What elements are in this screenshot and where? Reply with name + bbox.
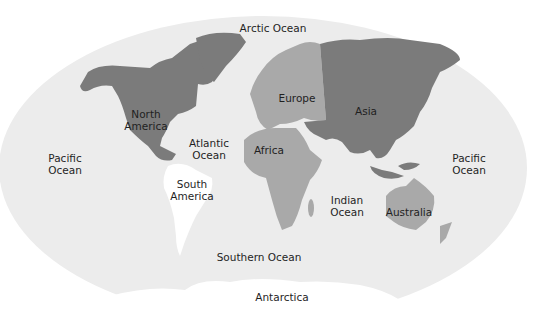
label-line: America — [124, 120, 167, 132]
label-antarctica: Antarctica — [255, 291, 309, 303]
label-south-america: South America — [170, 178, 213, 202]
label-australia: Australia — [386, 206, 432, 218]
label-line: Indian — [330, 194, 364, 206]
label-line: Ocean — [452, 164, 486, 176]
label-line: Pacific — [452, 152, 486, 164]
label-line: Ocean — [48, 164, 82, 176]
label-indian-ocean: Indian Ocean — [330, 194, 364, 218]
label-line: Ocean — [330, 206, 364, 218]
label-arctic-ocean: Arctic Ocean — [240, 22, 307, 34]
label-line: Ocean — [189, 149, 229, 161]
label-europe: Europe — [279, 92, 316, 104]
label-north-america: North America — [124, 108, 167, 132]
label-line: Pacific — [48, 152, 82, 164]
label-asia: Asia — [355, 105, 377, 117]
madagascar-shape — [308, 199, 314, 217]
label-southern-ocean: Southern Ocean — [217, 251, 302, 263]
label-line: North — [124, 108, 167, 120]
label-atlantic-ocean: Atlantic Ocean — [189, 137, 229, 161]
label-line: America — [170, 190, 213, 202]
label-africa: Africa — [254, 144, 284, 156]
label-line: South — [170, 178, 213, 190]
label-pacific-ocean-east: Pacific Ocean — [452, 152, 486, 176]
label-line: Atlantic — [189, 137, 229, 149]
label-pacific-ocean-west: Pacific Ocean — [48, 152, 82, 176]
